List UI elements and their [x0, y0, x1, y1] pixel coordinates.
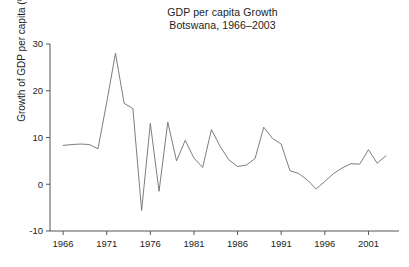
x-tick-label: 1986	[227, 238, 248, 249]
chart-container: GDP per capita Growth Botswana, 1966–200…	[0, 0, 409, 267]
y-tick-label: 10	[32, 132, 43, 143]
x-tick-label: 1971	[96, 238, 117, 249]
y-tick-label: 20	[32, 85, 43, 96]
y-tick-label: -10	[29, 225, 43, 236]
y-tick-label: 30	[32, 38, 43, 49]
axes: -100102030196619711976198119861991199620…	[29, 38, 399, 249]
x-tick-label: 1976	[140, 238, 161, 249]
x-tick-label: 1996	[314, 238, 335, 249]
plot-area: -100102030196619711976198119861991199620…	[0, 0, 409, 267]
x-tick-label: 1981	[183, 238, 204, 249]
x-tick-label: 2001	[358, 238, 379, 249]
x-tick-label: 1991	[271, 238, 292, 249]
data-series	[63, 53, 386, 210]
y-tick-label: 0	[38, 179, 43, 190]
x-tick-label: 1966	[53, 238, 74, 249]
data-line	[63, 53, 386, 210]
